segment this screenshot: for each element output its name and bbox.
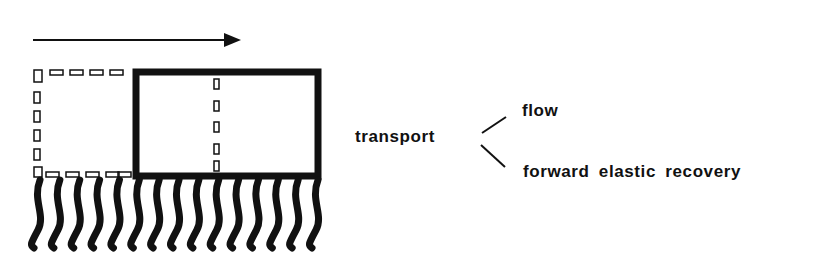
fiber-strand <box>111 180 120 248</box>
fiber-strand <box>250 180 259 248</box>
fiber-strand <box>190 180 199 248</box>
displaced-block <box>136 72 318 176</box>
fiber-strand <box>151 180 160 248</box>
dash-segment <box>34 130 40 141</box>
motion-arrow <box>33 33 241 47</box>
arrow-head-icon <box>224 33 241 47</box>
dash-segment <box>110 70 123 75</box>
label-transport: transport <box>355 127 435 147</box>
fiber-strand <box>131 180 140 248</box>
dash-segment <box>34 70 42 82</box>
fiber-strand <box>51 180 60 248</box>
fiber-strand <box>290 180 299 248</box>
fiber-strand <box>71 180 80 248</box>
dash-segment <box>34 167 42 177</box>
dash-segment <box>70 70 83 75</box>
dash-segment <box>66 172 79 177</box>
branch-bracket <box>481 117 506 167</box>
branch-line-flow <box>482 117 506 133</box>
fiber-strand <box>91 180 100 248</box>
dash-segment <box>118 172 131 177</box>
fiber-strand <box>210 180 219 248</box>
dash-segment <box>34 111 40 122</box>
dash-segment <box>50 70 63 75</box>
original-position-dashed-box <box>34 70 131 177</box>
dash-segment <box>214 144 219 154</box>
label-flow: flow <box>522 101 558 121</box>
dash-segment <box>46 172 59 177</box>
dash-segment <box>34 92 40 103</box>
dash-segment <box>86 172 99 177</box>
dash-segment <box>214 161 219 171</box>
label-forward-elastic-recovery: forward elastic recovery <box>523 162 741 182</box>
branch-line-recovery <box>481 145 505 167</box>
dash-segment <box>34 149 40 160</box>
dash-segment <box>214 79 219 89</box>
dash-segment <box>214 122 219 132</box>
internal-dashed-line <box>214 79 219 171</box>
fiber-strand <box>170 180 179 248</box>
dash-segment <box>106 172 119 177</box>
fiber-strand <box>31 180 40 248</box>
dash-segment <box>214 101 219 111</box>
fiber-brush <box>31 180 318 248</box>
fiber-strand <box>309 180 318 248</box>
fiber-strand <box>270 180 279 248</box>
fiber-strand <box>230 180 239 248</box>
dash-segment <box>90 70 103 75</box>
